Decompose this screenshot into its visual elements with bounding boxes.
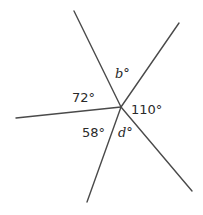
angle-label-d: d° xyxy=(118,125,133,140)
ray-upper-right xyxy=(121,23,179,107)
angle-diagram: b° 72° 110° 58° d° xyxy=(0,0,203,215)
angle-label-58: 58° xyxy=(82,125,105,140)
ray-lower-left xyxy=(87,107,121,202)
ray-left xyxy=(16,107,121,118)
ray-lower-right xyxy=(121,107,192,191)
angle-label-72: 72° xyxy=(72,90,95,105)
angle-label-b: b° xyxy=(115,66,130,81)
angle-label-110: 110° xyxy=(131,102,162,117)
